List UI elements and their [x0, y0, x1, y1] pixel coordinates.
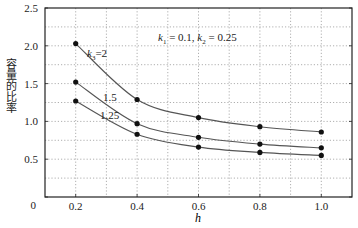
data-point-marker — [196, 135, 201, 140]
data-point-marker — [196, 145, 201, 150]
y-tick-label: 1.0 — [24, 115, 38, 127]
y-axis-label: 容量的比率 — [3, 58, 17, 113]
data-point-marker — [319, 153, 324, 158]
data-point-marker — [73, 41, 78, 46]
y-tick-label: 2.0 — [24, 40, 38, 52]
data-point-marker — [73, 79, 78, 84]
x-tick-label: 1.0 — [314, 200, 328, 212]
data-point-marker — [135, 121, 140, 126]
x-tick-label: 0.2 — [69, 200, 83, 212]
data-point-marker — [257, 150, 262, 155]
y-tick-label: 1.5 — [24, 78, 38, 90]
curve-label-1-5: 1.5 — [103, 91, 117, 103]
data-point-marker — [135, 132, 140, 137]
y-tick-label: 2.5 — [24, 2, 38, 14]
data-point-marker — [73, 98, 78, 103]
y-tick-label: 0 — [31, 199, 37, 211]
line-chart: 00.51.01.52.02.5 0.20.40.60.81.0 h k1 = … — [0, 0, 358, 228]
x-axis-label: h — [195, 211, 201, 225]
data-point-marker — [319, 129, 324, 134]
parameter-annotation: k1 = 0.1, k2 = 0.25 — [158, 31, 237, 46]
curve-label-k3-2: k3=2 — [87, 47, 107, 62]
data-point-marker — [257, 141, 262, 146]
data-point-marker — [319, 145, 324, 150]
data-point-marker — [196, 115, 201, 120]
data-point-marker — [135, 97, 140, 102]
data-point-marker — [257, 124, 262, 129]
x-tick-label: 0.4 — [130, 200, 144, 212]
curve-label-1-25: 1.25 — [100, 109, 120, 121]
x-tick-label: 0.8 — [253, 200, 267, 212]
y-tick-label: 0.5 — [24, 153, 38, 165]
